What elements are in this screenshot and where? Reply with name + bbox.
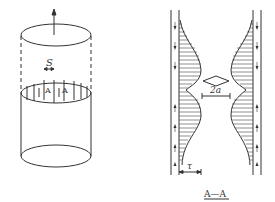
up-arrow-icon	[52, 9, 56, 15]
slot-label-a2: A	[61, 86, 68, 95]
diagram-canvas: S A A 2a τ A—A	[0, 0, 275, 202]
section-figure	[171, 10, 261, 199]
up-arrow-icon	[174, 162, 177, 166]
cylinder-figure	[21, 9, 91, 167]
up-arrow-icon	[256, 162, 259, 166]
section-label: A—A	[203, 189, 226, 199]
width-label: 2a	[209, 85, 221, 95]
cylinder-top-ellipse	[21, 24, 91, 46]
left-stress-profile	[180, 20, 201, 165]
right-stress-profile	[231, 20, 252, 165]
stress-label: τ	[187, 161, 193, 171]
cylinder-bottom-ellipse	[21, 145, 91, 167]
slot-label-a1: A	[44, 86, 51, 95]
spacing-label: S	[46, 57, 53, 68]
